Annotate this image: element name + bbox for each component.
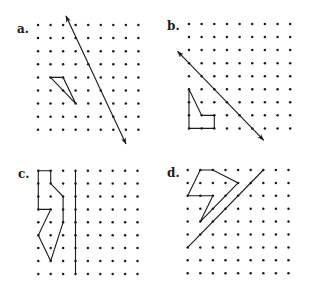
grid-dot (49, 221, 52, 224)
grid-dot (125, 24, 128, 27)
grid-dot (213, 49, 216, 52)
panel-label-a: a. (17, 22, 29, 36)
grid-dot (87, 102, 90, 105)
grid-dot (287, 169, 290, 172)
grid-dot (275, 182, 278, 185)
grid-dot (136, 273, 139, 276)
grid-dot (249, 195, 252, 198)
grid-dot (276, 101, 279, 104)
grid-dot (287, 207, 290, 210)
grid-dot (275, 195, 278, 198)
grid-dot (137, 63, 140, 66)
grid-dot (249, 246, 252, 249)
grid-dot (87, 115, 90, 118)
grid-dot (251, 114, 254, 117)
grid-dot (199, 246, 202, 249)
grid-dot (124, 195, 127, 198)
grid-dot (186, 233, 189, 236)
grid-dot (213, 36, 216, 39)
grid-dot (112, 24, 115, 27)
grid-dot (200, 62, 203, 65)
grid-dot (49, 273, 52, 276)
reflection-exercise-figure: a. b. c. d. (0, 0, 310, 291)
grid-dot (99, 182, 102, 185)
panel-label-b: b. (167, 19, 180, 33)
grid-dot (124, 221, 127, 224)
grid-dot (262, 207, 265, 210)
grid-dot (212, 272, 215, 275)
grid-dot (264, 88, 267, 91)
reflection-line (188, 170, 264, 247)
pentagon (189, 89, 214, 128)
grid-dot (87, 247, 90, 250)
grid-dot (137, 129, 140, 132)
grid-dot (276, 75, 279, 78)
grid-dot (49, 129, 52, 132)
grid-dot (262, 233, 265, 236)
grid-dot (111, 234, 114, 237)
grid-dot (100, 129, 103, 132)
grid-dot (111, 247, 114, 250)
grid-dot (112, 50, 115, 53)
grid-dot (100, 24, 103, 27)
grid-dot (136, 247, 139, 250)
grid-dot (37, 273, 40, 276)
grid-dot (289, 127, 292, 130)
grid-dot (276, 23, 279, 26)
grid-dot (111, 273, 114, 276)
reflection-line (66, 16, 126, 144)
grid-dot (99, 234, 102, 237)
grid-dot (264, 114, 267, 117)
grid-dot (87, 24, 90, 27)
grid-dot (137, 76, 140, 79)
grid-dot (37, 50, 40, 53)
grid-dot (262, 246, 265, 249)
grid-dot (112, 129, 115, 132)
grid-dot (287, 220, 290, 223)
grid-dot (62, 234, 65, 237)
grid-dot (62, 115, 65, 118)
grid-dot (112, 102, 115, 105)
grid-dot (37, 76, 40, 79)
grid-dot (287, 182, 290, 185)
grid-dot (74, 89, 77, 92)
grid-dot (87, 182, 90, 185)
grid-dot (99, 247, 102, 250)
grid-dot (136, 260, 139, 263)
grid-dot (87, 37, 90, 40)
grid-dot (237, 233, 240, 236)
grid-dot (289, 114, 292, 117)
grid-dot (125, 76, 128, 79)
grid-dot (49, 37, 52, 40)
grid-dot (200, 49, 203, 52)
grid-dot (238, 88, 241, 91)
grid-dot (87, 50, 90, 53)
grid-dot (289, 75, 292, 78)
grid-dot (212, 259, 215, 262)
grid-dot (212, 246, 215, 249)
grid-dot (125, 89, 128, 92)
grid-dot (62, 37, 65, 40)
grid-dot (188, 49, 191, 52)
dot-grid (186, 169, 289, 275)
grid-dot (238, 101, 241, 104)
grid-dot (137, 115, 140, 118)
grid-dot (99, 195, 102, 198)
grid-dot (100, 115, 103, 118)
grid-dot (226, 49, 229, 52)
grid-dot (125, 37, 128, 40)
grid-dot (100, 63, 103, 66)
grid-dot (213, 62, 216, 65)
grid-dot (37, 129, 40, 132)
grid-dot (100, 102, 103, 105)
grid-dot (87, 260, 90, 263)
grid-dot (213, 75, 216, 78)
grid-dot (74, 129, 77, 132)
grid-dot (137, 37, 140, 40)
grid-dot (111, 260, 114, 263)
grid-dot (237, 169, 240, 172)
grid-dot (99, 221, 102, 224)
grid-dot (238, 75, 241, 78)
grid-dot (249, 272, 252, 275)
grid-dot (276, 114, 279, 117)
